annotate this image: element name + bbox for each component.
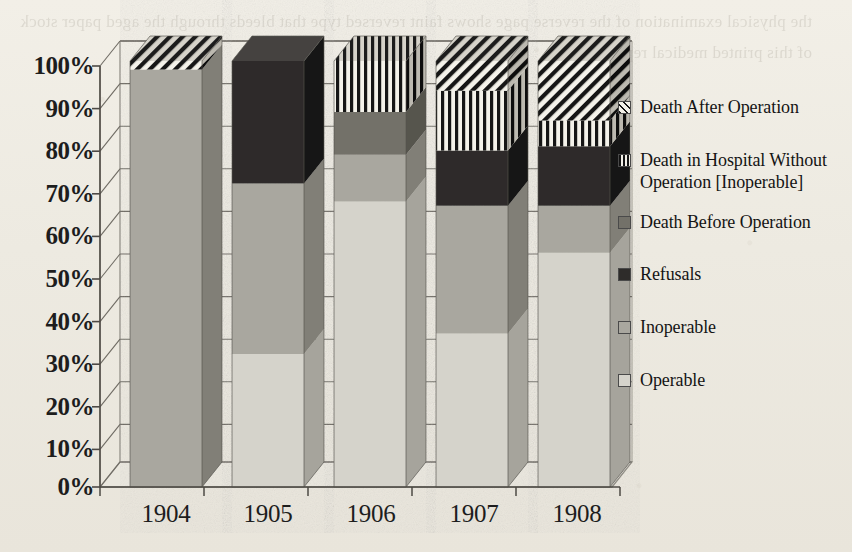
y-tick-80: 80%	[8, 137, 94, 165]
legend-label-operable: Operable	[640, 369, 705, 391]
bar-1906[interactable]	[334, 36, 426, 487]
y-tick-20: 20%	[8, 393, 94, 421]
x-tick-1908: 1908	[522, 500, 632, 528]
legend-swatch-death-in-hospital-without-operation-icon	[618, 154, 631, 167]
bar-1905[interactable]	[232, 36, 324, 487]
x-tick-1905: 1905	[213, 500, 323, 528]
y-tick-60: 60%	[8, 222, 94, 250]
axis-depth-connectors	[100, 41, 120, 487]
y-tick-100: 100%	[8, 52, 94, 80]
bar-1908[interactable]	[538, 36, 630, 487]
x-tick-1904: 1904	[111, 500, 221, 528]
legend-label-inoperable: Inoperable	[640, 316, 716, 338]
legend-item-operable[interactable]: Operable	[618, 369, 850, 391]
legend-swatch-refusals-icon	[618, 268, 631, 281]
legend-label-death-after-operation: Death After Operation	[640, 96, 799, 118]
legend-label-death-in-hospital-without-operation: Death in Hospital Without Operation [Ino…	[640, 149, 850, 193]
bar-1904-seg-inoperable	[130, 45, 222, 488]
bar-1908-seg-operable	[538, 228, 630, 487]
x-tick-1907: 1907	[419, 500, 529, 528]
legend-swatch-death-before-operation-icon	[618, 216, 631, 229]
legend-item-refusals[interactable]: Refusals	[618, 263, 850, 285]
y-tick-30: 30%	[8, 350, 94, 378]
y-tick-40: 40%	[8, 308, 94, 336]
bar-1905-seg-refusals	[232, 36, 324, 184]
y-tick-0: 0%	[8, 473, 94, 501]
bar-1906-seg-operable	[334, 177, 426, 487]
chart-legend: Death After Operation Death in Hospital …	[618, 96, 850, 404]
legend-item-death-after-operation[interactable]: Death After Operation	[618, 96, 850, 118]
bar-1908-seg-death-after-operation	[538, 36, 630, 121]
x-tick-1906: 1906	[316, 500, 426, 528]
bar-1904[interactable]	[130, 36, 222, 487]
x-axis	[100, 487, 620, 496]
bar-1907[interactable]	[436, 36, 528, 487]
y-tick-90: 90%	[8, 95, 94, 123]
y-tick-70: 70%	[8, 180, 94, 208]
y-tick-50: 50%	[8, 265, 94, 293]
legend-swatch-inoperable-icon	[618, 321, 631, 334]
stacked-bar-chart: 100% 90% 80% 70% 60% 50% 40% 30% 20% 10%…	[0, 0, 852, 552]
bar-1907-seg-operable	[436, 309, 528, 487]
legend-label-death-before-operation: Death Before Operation	[640, 211, 811, 233]
legend-swatch-death-after-operation-icon	[618, 101, 631, 114]
y-tick-10: 10%	[8, 435, 94, 463]
bar-1905-seg-inoperable	[232, 159, 324, 354]
legend-swatch-operable-icon	[618, 374, 631, 387]
legend-item-death-before-operation[interactable]: Death Before Operation	[618, 211, 850, 233]
y-axis-labels: 100% 90% 80% 70% 60% 50% 40% 30% 20% 10%…	[8, 0, 94, 552]
legend-label-refusals: Refusals	[640, 263, 701, 285]
bar-1906-seg-death-in-hospital-without-operation	[334, 36, 426, 112]
legend-item-inoperable[interactable]: Inoperable	[618, 316, 850, 338]
legend-item-death-in-hospital-without-operation[interactable]: Death in Hospital Without Operation [Ino…	[618, 149, 850, 193]
